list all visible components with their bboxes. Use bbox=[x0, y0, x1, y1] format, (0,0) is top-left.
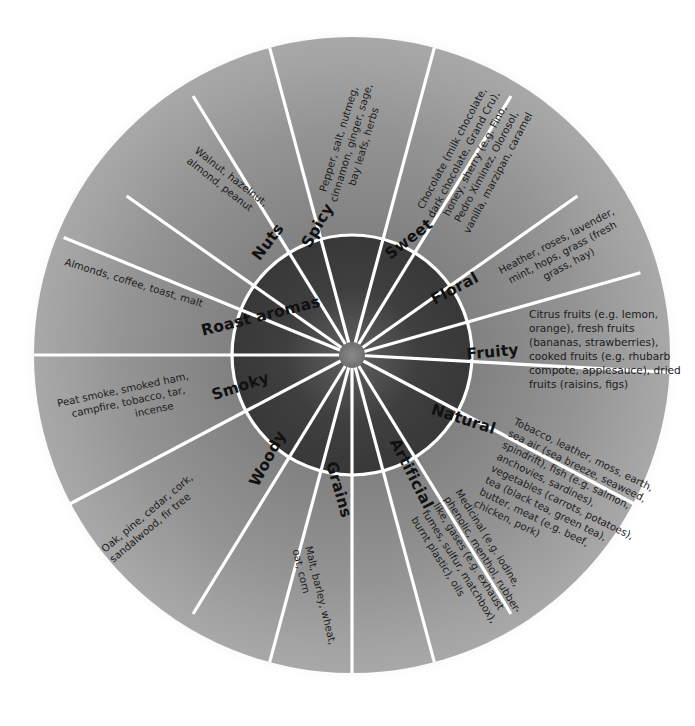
svg-text:cooked fruits (e.g. rhubarb: cooked fruits (e.g. rhubarb bbox=[529, 350, 671, 362]
flavour-wheel-diagram: Spicy Sweet Floral Fruity Natural Artifi… bbox=[0, 0, 695, 726]
svg-text:fruits (raisins, figs): fruits (raisins, figs) bbox=[529, 378, 628, 390]
wheel-hub bbox=[339, 342, 365, 368]
svg-text:compote, applesauce), dried: compote, applesauce), dried bbox=[529, 364, 681, 376]
svg-text:Citrus fruits (e.g. lemon,: Citrus fruits (e.g. lemon, bbox=[529, 308, 658, 320]
svg-text:orange), fresh fruits: orange), fresh fruits bbox=[529, 322, 635, 334]
svg-text:(bananas, strawberries),: (bananas, strawberries), bbox=[529, 336, 658, 348]
wheel-canvas: Spicy Sweet Floral Fruity Natural Artifi… bbox=[0, 0, 695, 726]
